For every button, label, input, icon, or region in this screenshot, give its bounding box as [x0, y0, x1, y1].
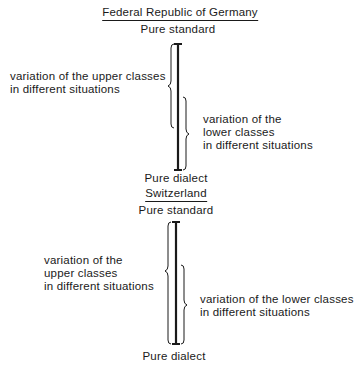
brace-lower-switzerland — [181, 265, 187, 344]
scale-bar-germany — [174, 44, 182, 170]
brace-upper-switzerland — [165, 222, 171, 344]
brace-upper-germany — [168, 44, 174, 128]
scale-bar-switzerland — [172, 222, 180, 344]
brace-lower-germany — [183, 97, 189, 170]
diagram-lines — [0, 0, 357, 365]
